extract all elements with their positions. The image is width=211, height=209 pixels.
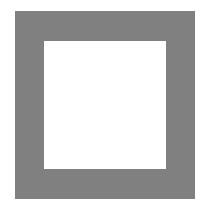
square-frame (15, 11, 195, 199)
frame-interior (44, 41, 166, 169)
